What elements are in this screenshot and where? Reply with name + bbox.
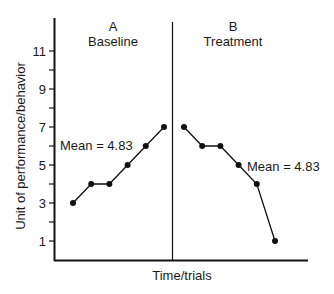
phase-b-letter: B <box>229 19 238 34</box>
data-point <box>199 143 205 149</box>
y-tick-label: 1 <box>39 234 46 249</box>
y-axis-label: Unit of performance/behavior <box>13 62 28 230</box>
data-point <box>106 181 112 187</box>
phase-b-name: Treatment <box>204 34 263 49</box>
mean-b-annotation: Mean = 4.83 <box>247 159 320 174</box>
chart: 1357911 A Baseline B Treatment Mean = 4.… <box>0 0 334 294</box>
data-point <box>217 143 223 149</box>
treatment-series <box>181 124 278 244</box>
data-point <box>143 143 149 149</box>
y-tick-label: 9 <box>39 82 46 97</box>
data-point <box>254 181 260 187</box>
baseline-series <box>70 124 167 206</box>
mean-a-annotation: Mean = 4.83 <box>60 138 133 153</box>
phase-a-name: Baseline <box>88 34 138 49</box>
data-point <box>70 200 76 206</box>
series-line <box>184 127 275 241</box>
data-point <box>88 181 94 187</box>
data-point <box>181 124 187 130</box>
y-tick-label: 5 <box>39 158 46 173</box>
y-tick-label: 3 <box>39 196 46 211</box>
data-point <box>125 162 131 168</box>
y-tick-label: 7 <box>39 120 46 135</box>
data-point <box>272 238 278 244</box>
data-point <box>236 162 242 168</box>
data-point <box>161 124 167 130</box>
y-tick-label: 11 <box>33 44 47 59</box>
y-tick-labels: 1357911 <box>33 44 47 249</box>
phase-a-letter: A <box>109 19 118 34</box>
x-axis-label: Time/trials <box>152 268 212 283</box>
